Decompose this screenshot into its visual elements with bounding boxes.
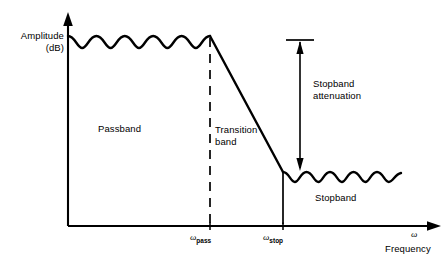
y-axis-arrowhead — [63, 12, 73, 26]
filter-response-diagram: Amplitude (dB) Passband Transition band … — [0, 0, 447, 265]
attenuation-up-arrowhead — [296, 41, 303, 54]
y-axis-label: Amplitude (dB) — [10, 30, 64, 54]
stopband-attenuation-arrow — [286, 40, 314, 171]
y-axis-label-line1: Amplitude — [10, 30, 64, 42]
stopband-region-label: Stopband — [315, 192, 356, 204]
transition-band-label: Transition band — [215, 124, 257, 148]
x-axis-arrowhead — [427, 221, 441, 231]
y-axis-label-line2: (dB) — [10, 42, 64, 54]
tick-label-omega-stop: ωstop — [263, 232, 283, 244]
stopband-attenuation-label-line1: Stopband — [313, 78, 361, 90]
axes-group — [63, 12, 441, 231]
passband-ripple-curve — [68, 36, 210, 48]
stopband-ripple-curve — [283, 172, 401, 182]
omega-subscript-stop: stop — [269, 237, 283, 244]
tick-label-omega-pass: ωpass — [190, 232, 211, 244]
stopband-attenuation-label-line2: attenuation — [313, 90, 361, 102]
transition-band-label-line2: band — [215, 136, 257, 148]
passband-region-label: Passband — [98, 123, 141, 135]
transition-band-label-line1: Transition — [215, 124, 257, 136]
omega-subscript-pass: pass — [196, 237, 211, 244]
x-axis-label: Frequency — [385, 243, 431, 255]
attenuation-down-arrowhead — [296, 158, 303, 171]
transition-slope-line — [210, 36, 283, 172]
stopband-attenuation-label: Stopband attenuation — [313, 78, 361, 102]
x-axis-omega-symbol: ω — [411, 229, 417, 239]
